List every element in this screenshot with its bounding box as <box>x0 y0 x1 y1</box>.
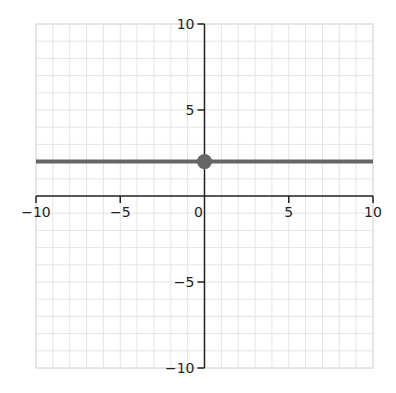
coordinate-plane: −10−50510−10−5510 <box>0 0 396 393</box>
y-tick-label: 10 <box>177 16 195 32</box>
x-tick-label: 10 <box>364 204 382 220</box>
y-tick-label: −5 <box>174 274 195 290</box>
y-tick-label: 5 <box>186 102 195 118</box>
intercept-point <box>197 154 212 169</box>
x-tick-label: 0 <box>194 204 203 220</box>
x-tick-label: −5 <box>110 204 131 220</box>
x-tick-label: 5 <box>284 204 293 220</box>
data-points <box>197 154 212 169</box>
y-tick-label: −10 <box>165 360 195 376</box>
x-tick-label: −10 <box>21 204 51 220</box>
